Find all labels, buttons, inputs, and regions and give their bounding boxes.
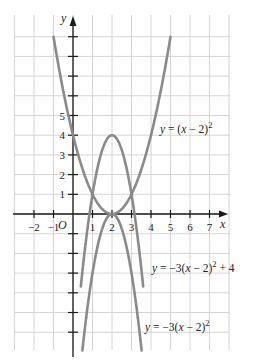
x-axis-label: x [219,217,226,231]
y-tick-label: 1 [60,188,66,200]
y-tick-label: 4 [60,129,66,141]
x-tick-label: −2 [28,221,40,233]
equation-label-3: y = −3(x − 2)2 [144,318,210,334]
x-tick-label: 3 [129,221,135,233]
parabola-chart: −2−1123456712345 y x O y = (x − 2)2 y = … [0,0,270,363]
x-tick-label: 7 [207,221,213,233]
y-tick-label: 5 [60,110,66,122]
axes [13,16,228,357]
origin-label: O [58,218,67,232]
equation-label-2: y = −3(x − 2)2 + 4 [151,259,235,275]
ticks: −2−1123456712345 [28,37,213,333]
equation-label-1: y = (x − 2)2 [159,120,212,136]
y-axis-arrow-icon [70,16,77,26]
y-tick-label: 2 [60,169,66,181]
x-tick-label: 6 [187,221,193,233]
x-tick-label: 2 [109,221,115,233]
x-tick-label: 5 [168,221,174,233]
y-axis-label: y [60,11,67,25]
y-tick-label: 3 [60,149,66,161]
x-tick-label: 1 [90,221,96,233]
x-tick-label: 4 [148,221,154,233]
grid [15,15,231,350]
